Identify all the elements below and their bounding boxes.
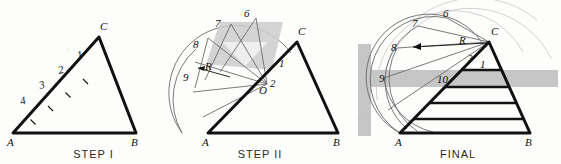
arc-label-8: 8 [391, 41, 397, 53]
inner-label-1: 1 [480, 58, 486, 70]
vertex-label-c: C [298, 25, 306, 37]
vertex-label-b: B [333, 136, 340, 148]
vertex-label-a: A [394, 136, 402, 148]
step2-drawing: R 6 7 8 9 1 2 O A B C [160, 0, 360, 150]
vertex-label-b: B [131, 136, 138, 148]
vertex-label-a: A [201, 136, 209, 148]
arc-label-10: 10 [437, 73, 449, 85]
vertex-label-c: C [100, 20, 108, 32]
arc-label-6: 6 [443, 7, 449, 19]
step1-drawing: 1 2 3 4 A B C [0, 0, 187, 150]
arc-label-6: 6 [244, 7, 250, 19]
division-label-2: 2 [57, 63, 66, 76]
triangle-abc [13, 37, 136, 133]
arc-label-7: 7 [215, 17, 221, 29]
inner-label-2: 2 [270, 77, 276, 89]
panel-step-2: R 6 7 8 9 1 2 O A B C STEP II [160, 0, 360, 164]
inner-label-1: 1 [279, 57, 285, 69]
vertex-label-a: A [6, 136, 14, 148]
vertex-label-b: B [525, 136, 532, 148]
division-label-4: 4 [19, 94, 28, 107]
caption-step-1: STEP I [0, 148, 187, 160]
arc-label-9: 9 [183, 71, 189, 83]
final-drawing: R 6 7 8 9 10 3 1 A B C [355, 0, 561, 150]
inner-label-3: 3 [467, 54, 473, 64]
arc-label-7: 7 [412, 17, 418, 29]
caption-step-2: STEP II [160, 148, 360, 160]
vertex-label-c: C [491, 25, 499, 37]
panel-final: R 6 7 8 9 10 3 1 A B C FINAL [355, 0, 561, 164]
arc-label-9: 9 [379, 72, 385, 84]
center-label-o: O [259, 84, 267, 96]
radius-label: R [458, 34, 466, 46]
radius-label: R [204, 60, 212, 72]
panel-step-1: 1 2 3 4 A B C STEP I [0, 0, 187, 164]
arc-label-8: 8 [193, 38, 199, 50]
division-label-3: 3 [37, 78, 47, 91]
caption-final: FINAL [355, 148, 561, 160]
